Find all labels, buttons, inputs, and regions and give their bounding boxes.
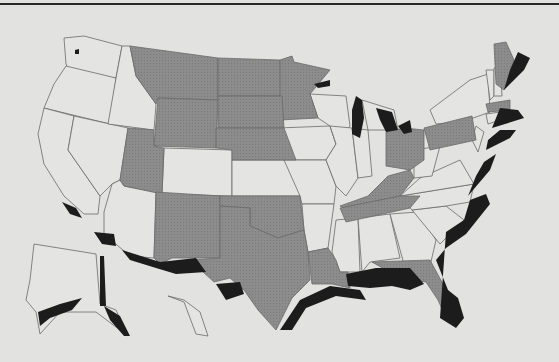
state-nm xyxy=(154,192,220,264)
state-wy xyxy=(154,98,218,148)
state-sd xyxy=(218,96,284,128)
state-hi xyxy=(168,296,208,336)
state-pa xyxy=(424,116,476,150)
us-map xyxy=(0,0,559,362)
state-oh xyxy=(386,128,424,170)
state-az xyxy=(104,180,156,258)
state-ny xyxy=(430,74,490,124)
state-co xyxy=(162,148,232,196)
state-nd xyxy=(218,58,282,96)
